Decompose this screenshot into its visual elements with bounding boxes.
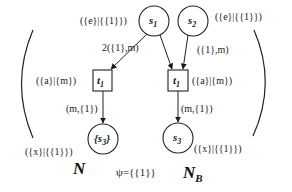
psi-label: ψ={{1}} — [116, 166, 156, 178]
place-s1-marking: ({e}|{{1}}) — [80, 15, 127, 27]
net-name-nb: NB — [182, 163, 203, 184]
right-parenthesis — [253, 30, 265, 136]
transition-t1-right: t1 — [168, 70, 188, 91]
transition-t1-right-annotation: ({a}|{m}) — [192, 75, 232, 87]
arc-t1-s3-right-label: (m,{1}) — [181, 103, 213, 115]
arc-t1-s3-left-label: (m,{1}) — [66, 103, 98, 115]
arc-s1-to-t1-right — [160, 35, 172, 69]
place-s3-right: s3 — [163, 123, 193, 153]
transition-t1-left-annotation: ({a}|{m}) — [36, 75, 76, 87]
transition-t1-left: t1 — [93, 70, 112, 91]
place-s2-marking: ({e}|{{1}}) — [215, 11, 262, 23]
petri-net-diagram: s1 ({e}|{{1}}) s2 ({e}|{{1}}) t1 ({a}|{m… — [0, 0, 292, 192]
arc-s2-t1-right-label: ({1},m) — [197, 44, 229, 56]
place-s3-right-marking: ({x}|{{1}}) — [194, 143, 241, 155]
place-s1: s1 — [139, 6, 169, 36]
net-name-n: N — [72, 159, 86, 178]
place-s2: s2 — [178, 6, 208, 36]
arc-s1-t1-left-label: 2({1},m) — [102, 42, 139, 54]
left-parenthesis — [22, 30, 34, 138]
place-s3-left: {s3} — [88, 124, 118, 154]
place-s3-left-marking: ({x}|{{1}}) — [25, 146, 72, 158]
arc-s2-to-t1-right — [183, 35, 188, 69]
